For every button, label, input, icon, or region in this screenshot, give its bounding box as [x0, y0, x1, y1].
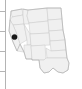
- state-wyoming[interactable]: [29, 21, 49, 34]
- state-north-dakota[interactable]: [47, 8, 62, 20]
- state-texas[interactable]: [39, 58, 69, 73]
- state-new-mexico[interactable]: [31, 45, 46, 60]
- state-kansas[interactable]: [50, 40, 66, 51]
- state-montana[interactable]: [27, 8, 48, 23]
- highlight-marker[interactable]: [12, 34, 17, 39]
- states-group: [9, 8, 69, 73]
- map-layer: [0, 0, 82, 89]
- map-figure: [0, 0, 82, 89]
- state-south-dakota[interactable]: [48, 19, 63, 31]
- state-colorado[interactable]: [30, 33, 50, 46]
- state-nebraska[interactable]: [49, 30, 65, 41]
